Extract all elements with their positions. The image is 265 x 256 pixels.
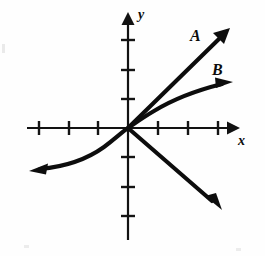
y-axis-arrowhead (122, 12, 135, 25)
graph-figure: y x A B (0, 0, 265, 256)
y-axis-label: y (138, 8, 144, 22)
x-axis-label: x (238, 134, 245, 148)
coordinate-plane-svg (0, 0, 265, 256)
curve-a-arrowhead-lower (205, 193, 222, 210)
curve-b-label: B (212, 62, 223, 78)
curve-b-arrowhead-right (215, 78, 233, 89)
scan-speck (24, 245, 29, 248)
curve-a-label: A (190, 28, 201, 44)
scan-speck (2, 44, 5, 53)
curve-b-arrowhead-left (29, 164, 48, 175)
scan-speck (236, 248, 241, 251)
